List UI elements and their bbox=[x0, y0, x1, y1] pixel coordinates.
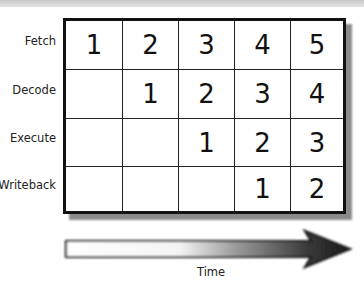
cell-fetch-4: 4 bbox=[235, 21, 291, 70]
cell-writeback-5: 2 bbox=[291, 167, 343, 211]
cell-fetch-1: 1 bbox=[66, 21, 123, 70]
stage-label-decode: Decode bbox=[12, 83, 56, 97]
cell-fetch-3: 3 bbox=[179, 21, 235, 70]
cell-execute-1 bbox=[66, 119, 123, 167]
cell-writeback-1 bbox=[66, 167, 123, 211]
cell-execute-5: 3 bbox=[291, 119, 343, 167]
stage-label-execute: Execute bbox=[10, 131, 56, 145]
cell-decode-1 bbox=[66, 70, 123, 119]
cell-decode-4: 3 bbox=[235, 70, 291, 119]
cell-execute-3: 1 bbox=[179, 119, 235, 167]
top-band bbox=[0, 0, 364, 7]
cell-execute-2 bbox=[123, 119, 179, 167]
cell-decode-3: 2 bbox=[179, 70, 235, 119]
stage-label-writeback: Writeback bbox=[0, 178, 56, 192]
pipeline-grid: 1 2 3 4 5 1 2 3 4 1 2 3 1 2 bbox=[63, 18, 346, 214]
cell-execute-4: 2 bbox=[235, 119, 291, 167]
cell-fetch-2: 2 bbox=[123, 21, 179, 70]
cell-decode-2: 1 bbox=[123, 70, 179, 119]
cell-writeback-3 bbox=[179, 167, 235, 211]
cell-decode-5: 4 bbox=[291, 70, 343, 119]
time-axis-label: Time bbox=[197, 265, 225, 279]
cell-writeback-2 bbox=[123, 167, 179, 211]
cell-fetch-5: 5 bbox=[291, 21, 343, 70]
cell-writeback-4: 1 bbox=[235, 167, 291, 211]
stage-label-fetch: Fetch bbox=[25, 34, 56, 48]
